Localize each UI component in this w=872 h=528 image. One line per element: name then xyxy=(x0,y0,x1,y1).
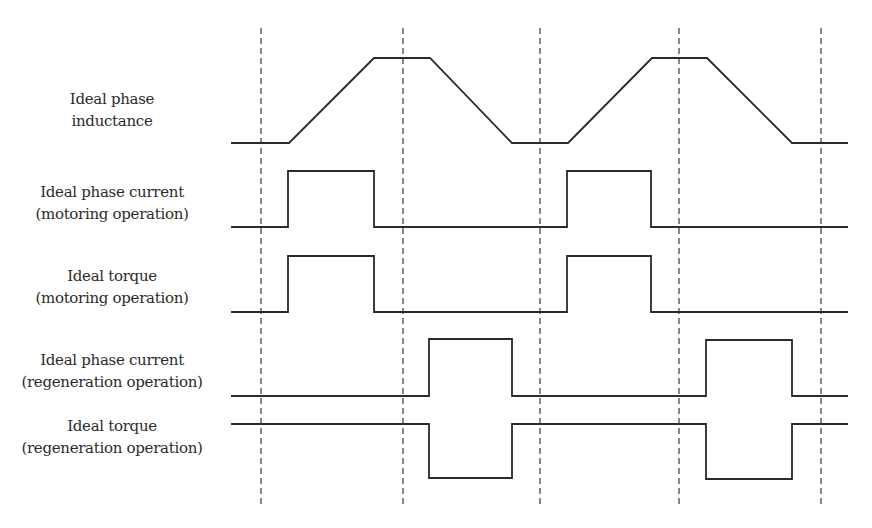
label-line: Ideal phase current xyxy=(0,349,224,371)
label-line: (regeneration operation) xyxy=(0,437,224,459)
label-torque-regen: Ideal torque (regeneration operation) xyxy=(0,415,224,459)
label-line: (regeneration operation) xyxy=(0,371,224,393)
label-line: (motoring operation) xyxy=(0,203,224,225)
label-current-regen: Ideal phase current (regeneration operat… xyxy=(0,349,224,393)
label-current-motoring: Ideal phase current (motoring operation) xyxy=(0,181,224,225)
waveform-current-regen xyxy=(231,339,848,396)
label-line: Ideal phase current xyxy=(0,181,224,203)
dashed-guide-lines xyxy=(261,28,821,504)
label-line: Ideal torque xyxy=(0,265,224,287)
label-line: Ideal torque xyxy=(0,415,224,437)
label-line: (motoring operation) xyxy=(0,287,224,309)
label-inductance: Ideal phase inductance xyxy=(0,88,224,132)
label-torque-motoring: Ideal torque (motoring operation) xyxy=(0,265,224,309)
label-line: Ideal phase xyxy=(0,88,224,110)
label-line: inductance xyxy=(0,110,224,132)
